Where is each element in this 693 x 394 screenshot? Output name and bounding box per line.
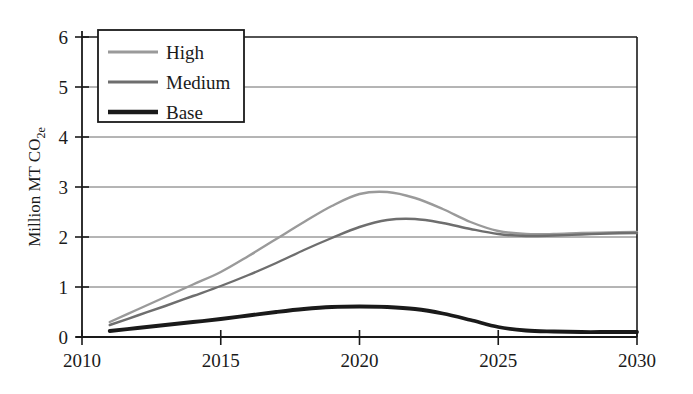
y-axis-tick-label: 2 bbox=[59, 227, 69, 248]
y-axis-tick-label: 6 bbox=[59, 27, 69, 48]
y-axis-tick-label: 4 bbox=[59, 127, 69, 148]
legend-label-medium: Medium bbox=[166, 72, 231, 93]
y-axis-tick-label: 0 bbox=[59, 327, 69, 348]
y-axis-tick-label: 3 bbox=[59, 177, 69, 198]
y-axis-title-subscript: 2e bbox=[34, 127, 48, 138]
x-axis-tick-label: 2020 bbox=[341, 350, 379, 371]
y-axis-title: Million MT CO2e bbox=[25, 127, 48, 247]
svg-text:Million MT CO2e: Million MT CO2e bbox=[25, 127, 48, 247]
legend-label-base: Base bbox=[166, 102, 203, 123]
chart-legend: HighMediumBase bbox=[98, 30, 244, 123]
legend-label-high: High bbox=[166, 42, 205, 63]
line-chart: 0123456 20102015202020252030 Million MT … bbox=[0, 0, 693, 394]
y-axis-tick-label: 1 bbox=[59, 277, 69, 298]
y-axis-title-main: Million MT CO bbox=[25, 139, 44, 247]
x-axis-tick-label: 2025 bbox=[479, 350, 517, 371]
x-axis-tick-label: 2030 bbox=[618, 350, 656, 371]
chart-figure: 0123456 20102015202020252030 Million MT … bbox=[0, 0, 693, 394]
y-axis-tick-label: 5 bbox=[59, 77, 69, 98]
x-axis-tick-label: 2015 bbox=[202, 350, 240, 371]
x-axis-tick-label: 2010 bbox=[63, 350, 101, 371]
